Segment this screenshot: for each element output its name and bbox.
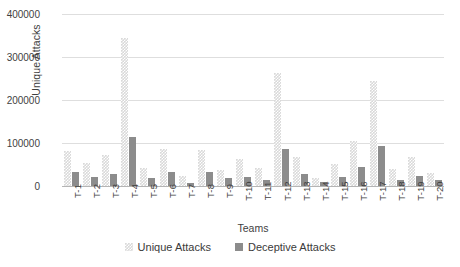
bar bbox=[378, 146, 385, 186]
bar bbox=[121, 38, 128, 186]
x-tick-cell: T-4 bbox=[119, 189, 138, 219]
bar-group bbox=[62, 14, 81, 186]
bar-group bbox=[272, 14, 291, 186]
x-tick-cell: T-20 bbox=[425, 189, 444, 219]
bar-group bbox=[157, 14, 176, 186]
bar bbox=[350, 141, 357, 186]
x-tick-cell: T-8 bbox=[196, 189, 215, 219]
bar-group bbox=[81, 14, 100, 186]
bar bbox=[198, 150, 205, 186]
bar bbox=[83, 163, 90, 186]
bar-group bbox=[253, 14, 272, 186]
x-tick-cell: T-10 bbox=[234, 189, 253, 219]
y-axis-title: Unique Attacks bbox=[30, 0, 42, 140]
x-tick-label: T-20 bbox=[434, 181, 445, 200]
bar bbox=[293, 157, 300, 186]
bar bbox=[389, 169, 396, 186]
bar bbox=[312, 178, 319, 186]
bar-group bbox=[329, 14, 348, 186]
x-tick-cell: T-2 bbox=[81, 189, 100, 219]
bar-group bbox=[177, 14, 196, 186]
legend-entry[interactable]: Deceptive Attacks bbox=[235, 241, 335, 253]
x-tick-cell: T-15 bbox=[329, 189, 348, 219]
x-tick-cell: T-11 bbox=[253, 189, 272, 219]
legend-swatch-icon bbox=[235, 243, 243, 251]
bar bbox=[408, 157, 415, 186]
x-tick-cell: T-12 bbox=[272, 189, 291, 219]
x-axis-title: Teams bbox=[62, 222, 444, 234]
bar bbox=[370, 81, 377, 186]
x-tick-cell: T-14 bbox=[310, 189, 329, 219]
bar bbox=[160, 149, 167, 186]
bar-group bbox=[196, 14, 215, 186]
bar-group bbox=[406, 14, 425, 186]
x-tick-cell: T-3 bbox=[100, 189, 119, 219]
bar bbox=[64, 151, 71, 186]
bar-group bbox=[100, 14, 119, 186]
bar bbox=[236, 159, 243, 186]
x-tick-cell: T-13 bbox=[291, 189, 310, 219]
bar bbox=[427, 173, 434, 186]
bar-group bbox=[348, 14, 367, 186]
bar bbox=[274, 73, 281, 186]
legend-entry[interactable]: Unique Attacks bbox=[125, 241, 211, 253]
bar-group bbox=[119, 14, 138, 186]
chart-legend: Unique AttacksDeceptive Attacks bbox=[0, 241, 460, 253]
bar-chart: Unique Attacks 0100000200000300000400000… bbox=[0, 0, 460, 267]
plot-area: 0100000200000300000400000 bbox=[62, 14, 444, 186]
bar-group bbox=[138, 14, 157, 186]
bar bbox=[217, 170, 224, 186]
y-tick-label: 300000 bbox=[0, 52, 40, 63]
bar bbox=[179, 176, 186, 186]
bar bbox=[331, 164, 338, 186]
legend-label: Unique Attacks bbox=[138, 241, 211, 253]
x-tick-cell: T-17 bbox=[368, 189, 387, 219]
x-tick-cell: T-5 bbox=[138, 189, 157, 219]
bar-group bbox=[215, 14, 234, 186]
bar-group bbox=[310, 14, 329, 186]
bar bbox=[255, 168, 262, 186]
x-tick-cell: T-6 bbox=[157, 189, 176, 219]
legend-label: Deceptive Attacks bbox=[248, 241, 335, 253]
x-axis-tick-labels: T-1T-2T-3T-4T-5T-6T-7T-8T-9T-10T-11T-12T… bbox=[62, 189, 444, 219]
bar bbox=[102, 155, 109, 186]
bar-group bbox=[425, 14, 444, 186]
bar-group bbox=[234, 14, 253, 186]
y-tick-label: 400000 bbox=[0, 9, 40, 20]
y-tick-label: 100000 bbox=[0, 138, 40, 149]
x-tick-cell: T-1 bbox=[62, 189, 81, 219]
bar-group bbox=[368, 14, 387, 186]
bars-layer bbox=[62, 14, 444, 186]
y-tick-label: 0 bbox=[0, 181, 40, 192]
bar-group bbox=[291, 14, 310, 186]
x-tick-cell: T-16 bbox=[348, 189, 367, 219]
x-tick-cell: T-7 bbox=[177, 189, 196, 219]
bar bbox=[140, 168, 147, 186]
x-tick-cell: T-9 bbox=[215, 189, 234, 219]
x-tick-cell: T-19 bbox=[406, 189, 425, 219]
y-tick-label: 200000 bbox=[0, 95, 40, 106]
legend-swatch-icon bbox=[125, 243, 133, 251]
x-tick-cell: T-18 bbox=[387, 189, 406, 219]
bar-group bbox=[387, 14, 406, 186]
bar bbox=[129, 137, 136, 186]
